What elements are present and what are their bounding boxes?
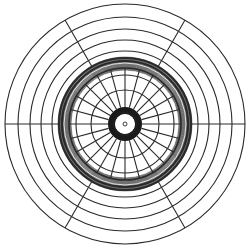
inner-spoke <box>85 136 113 164</box>
inner-spoke <box>85 84 113 112</box>
polar-grid-diagram <box>0 0 248 246</box>
inner-spoke <box>137 136 165 164</box>
center-dot <box>123 122 127 126</box>
center-dot-icon <box>123 122 127 126</box>
inner-spoke <box>137 84 165 112</box>
